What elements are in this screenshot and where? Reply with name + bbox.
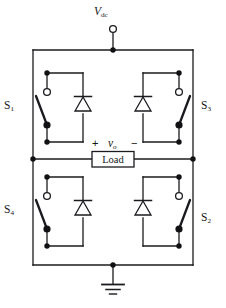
leg-top-left (36, 73, 92, 142)
d2-diode-triangle (135, 201, 151, 215)
d4-diode-triangle (75, 201, 91, 215)
switch-label-s1: S1 (4, 100, 14, 113)
load-block-label: Load (92, 152, 134, 167)
s1-pivot-dot (43, 121, 50, 128)
node-ground-bottom-rail (110, 262, 115, 267)
switch-label-s2: S2 (201, 212, 211, 225)
s2-number: 2 (207, 217, 211, 225)
node-tl-branch-bottom (44, 139, 49, 144)
s2-pivot-dot (175, 225, 182, 232)
node-tr-branch-bottom (176, 139, 181, 144)
s3-open-contact[interactable] (176, 89, 183, 96)
vdc-terminal-circle[interactable] (110, 26, 117, 33)
vdc-subscript: dc (101, 11, 108, 19)
leg-bottom-right (135, 177, 191, 246)
node-tr-branch-top (176, 70, 181, 75)
polarity-plus-label: + (92, 138, 98, 149)
d3-diode-triangle (135, 97, 151, 111)
vo-subscript: o (113, 143, 117, 151)
s1-switch-blade[interactable] (36, 96, 47, 125)
leg-bottom-left (36, 177, 92, 246)
node-bl-branch-bottom (44, 243, 49, 248)
s3-switch-blade[interactable] (179, 96, 190, 125)
s4-number: 4 (10, 209, 14, 217)
s4-pivot-dot (43, 225, 50, 232)
leg-top-right (135, 73, 191, 142)
s2-open-contact[interactable] (176, 193, 183, 200)
s3-pivot-dot (175, 121, 182, 128)
s2-switch-blade[interactable] (179, 200, 190, 229)
switch-label-s4: S4 (4, 204, 14, 217)
circuit-diagram: Vdc S1 S3 S4 S2 + vo − Load (0, 0, 226, 308)
node-br-branch-bottom (176, 243, 181, 248)
s4-open-contact[interactable] (44, 193, 51, 200)
ground-branch (102, 265, 124, 294)
s1-number: 1 (10, 105, 14, 113)
node-right-load-tap (190, 156, 195, 161)
node-tl-branch-top (44, 70, 49, 75)
node-vdc-top-rail (110, 47, 115, 52)
d1-diode-triangle (75, 97, 91, 111)
switch-label-s3: S3 (201, 100, 211, 113)
node-br-branch-top (176, 174, 181, 179)
vdc-source-label: Vdc (94, 6, 108, 19)
node-bl-branch-top (44, 174, 49, 179)
polarity-minus-label: − (131, 138, 137, 149)
s3-number: 3 (207, 105, 211, 113)
output-voltage-label: vo (108, 138, 117, 151)
vdc-symbol: V (94, 5, 101, 17)
s4-switch-blade[interactable] (36, 200, 47, 229)
s1-open-contact[interactable] (44, 89, 51, 96)
node-left-load-tap (30, 156, 35, 161)
